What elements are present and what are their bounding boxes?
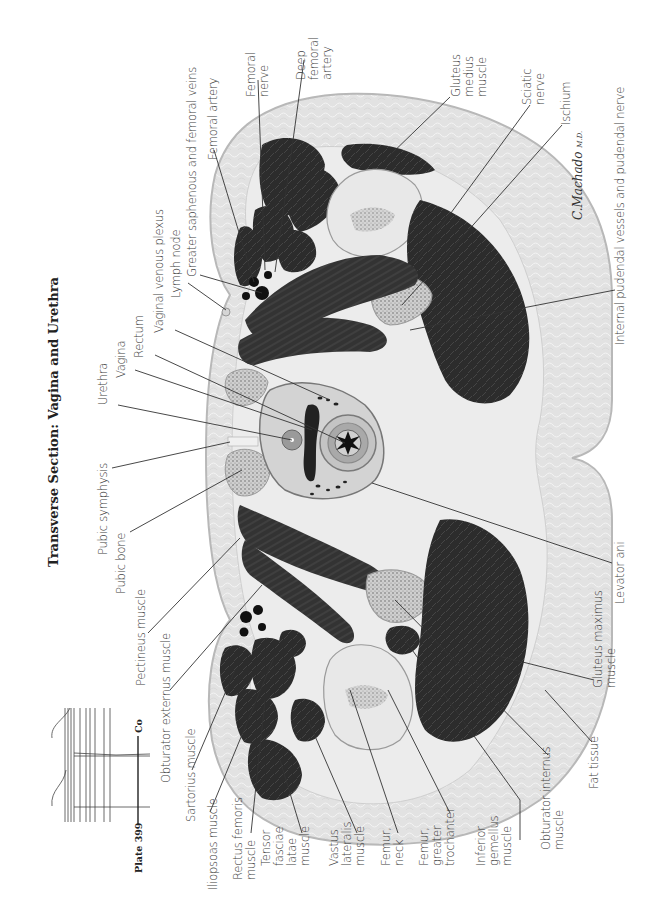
signature-name: C.Machado bbox=[571, 151, 585, 220]
label-vaginal-venous-plexus: Vaginal venous plexus bbox=[153, 209, 166, 333]
pubic-symphysis-disc bbox=[228, 437, 258, 446]
label-ischium: Ischium bbox=[560, 82, 573, 125]
label-pubic-bone: Pubic bone bbox=[115, 533, 128, 594]
label-femur-neck: Femur, neck bbox=[380, 827, 406, 866]
label-levator-ani: Levator ani bbox=[614, 542, 627, 604]
label-inferior-gemellus-muscle: Inferior gemellus muscle bbox=[475, 816, 514, 866]
label-urethra: Urethra bbox=[97, 363, 110, 405]
lower-vessel-d bbox=[258, 623, 266, 631]
label-greater-saphenous-femoral-veins: Greater saphenous and femoral veins bbox=[186, 67, 199, 277]
label-tensor-fasciae-latae-muscle: Tensor fasciae latae muscle bbox=[260, 826, 312, 866]
label-deep-femoral-artery: Deep femoral artery bbox=[295, 37, 334, 80]
label-pubic-symphysis: Pubic symphysis bbox=[97, 463, 110, 555]
deep-femoral-artery-vessel bbox=[264, 271, 272, 279]
label-rectus-femoris-muscle: Rectus femoris muscle bbox=[232, 797, 258, 880]
label-sartorius-muscle: Sartorius muscle bbox=[185, 729, 198, 822]
label-femoral-artery: Femoral artery bbox=[207, 78, 220, 160]
label-fat-tissue: Fat tissue bbox=[588, 736, 601, 789]
label-obturator-internus-muscle: Obturator internus muscle bbox=[540, 747, 566, 850]
label-vastus-lateralis-muscle: Vastus lateralis muscle bbox=[328, 822, 367, 866]
label-vagina: Vagina bbox=[115, 341, 128, 378]
label-iliopsoas-muscle: Iliopsoas muscle bbox=[207, 798, 220, 890]
plate-number-label: Plate 399 bbox=[133, 823, 144, 873]
label-internal-pudendal-vessels-nerve: Internal pudendal vessels and pudendal n… bbox=[614, 87, 627, 345]
femoral-vein bbox=[242, 292, 250, 300]
anatomical-plate: Transverse Section: Vagina and Urethra P… bbox=[0, 0, 662, 904]
level-marker-label: Co bbox=[133, 719, 144, 733]
label-gluteus-medius-muscle: Gluteus medius muscle bbox=[450, 54, 489, 97]
lower-vessel-a bbox=[240, 611, 252, 623]
plate-title: Transverse Section: Vagina and Urethra bbox=[46, 277, 61, 567]
label-gluteus-maximus-muscle: Gluteus maximus muscle bbox=[592, 590, 618, 688]
label-rectum: Rectum bbox=[133, 315, 146, 358]
label-sciatic-nerve: Sciatic nerve bbox=[521, 69, 547, 106]
lower-vessel-c bbox=[240, 628, 249, 637]
label-obturator-externus-muscle: Obturator externus muscle bbox=[160, 633, 173, 783]
label-femur-greater-trochanter: Femur, greater trochanter bbox=[418, 808, 457, 866]
lower-vessel-b bbox=[253, 605, 263, 615]
label-pectineus-muscle: Pectineus muscle bbox=[135, 589, 148, 686]
lymph-node bbox=[222, 308, 230, 316]
artist-signature: C.Machado M.D. bbox=[571, 131, 585, 220]
label-lymph-node: Lymph node bbox=[170, 230, 183, 298]
signature-suffix: M.D. bbox=[576, 131, 584, 148]
label-femoral-nerve: Femoral nerve bbox=[245, 52, 271, 97]
